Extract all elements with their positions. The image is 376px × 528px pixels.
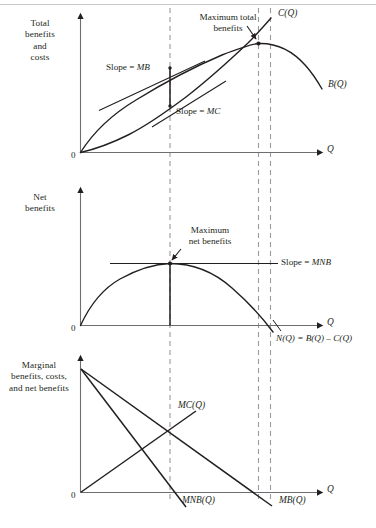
- annotation-slope-mnb-prefix: Slope =: [281, 257, 312, 267]
- mb-curve-label: MB(Q): [279, 495, 306, 505]
- economics-figure: Total benefits and costs Maximum total b…: [0, 0, 376, 528]
- panel3-x-axis-label: Q: [327, 484, 334, 494]
- dashed-guide-lines: [170, 8, 271, 499]
- panel2-y-axis-label-line-2: benefits: [8, 203, 72, 214]
- point-mc-tangency: [168, 104, 171, 107]
- annotation-slope-mnb: Slope = MNB: [281, 257, 331, 267]
- arrow-maximum-net-benefits: [172, 249, 181, 260]
- annotation-maximum-total-benefits-line-1: Maximum total: [182, 12, 274, 23]
- panel1-y-axis-label: Total benefits and costs: [8, 18, 72, 64]
- panel1-y-axis-label-line-1: Total: [8, 18, 72, 29]
- mnb-curve-label: MNB(Q): [182, 495, 215, 505]
- panel1-origin-label: 0: [71, 150, 76, 160]
- panel-total-benefits-and-costs: [81, 18, 323, 153]
- annotation-slope-mb-symbol: MB: [137, 62, 150, 72]
- curve-total-costs: [81, 18, 272, 153]
- cost-curve-label: C(Q): [278, 8, 297, 18]
- curve-net-benefits: [81, 264, 274, 333]
- annotation-slope-mb: Slope = MB: [106, 62, 150, 72]
- panel3-y-axis-label-line-1: Marginal: [2, 360, 76, 371]
- panel3-origin-label: 0: [71, 490, 76, 500]
- mc-curve-label: MC(Q): [178, 400, 205, 410]
- panel3-y-axis-label-line-2: benefits, costs,: [2, 371, 76, 382]
- annotation-maximum-net-benefits-line-1: Maximum: [168, 225, 252, 236]
- panel1-y-axis-label-line-2: benefits: [8, 29, 72, 40]
- annotation-maximum-total-benefits-line-2: benefits: [182, 23, 274, 34]
- curve-marginal-cost: [81, 411, 197, 493]
- panel2-origin-label: 0: [71, 323, 76, 333]
- panel-marginal-curves: [81, 360, 319, 507]
- panel1-y-axis-label-line-4: costs: [8, 52, 72, 63]
- curve-marginal-benefit: [81, 369, 272, 506]
- panel2-y-axis-label-line-1: Net: [8, 192, 72, 203]
- annotation-slope-mb-prefix: Slope =: [106, 62, 137, 72]
- panel2-x-axis-label: Q: [327, 317, 334, 327]
- annotation-maximum-net-benefits-line-2: net benefits: [168, 236, 252, 247]
- panel1-y-axis-label-line-3: and: [8, 41, 72, 52]
- panel2-y-axis-label: Net benefits: [8, 192, 72, 215]
- annotation-slope-mc-symbol: MC: [207, 106, 221, 116]
- benefit-curve-label: B(Q): [328, 79, 347, 89]
- point-maximum-total-benefits: [256, 41, 260, 45]
- annotation-maximum-total-benefits: Maximum total benefits: [182, 12, 274, 34]
- annotation-slope-mc: Slope = MC: [176, 106, 220, 116]
- annotation-slope-mnb-symbol: MNB: [312, 257, 331, 267]
- annotation-maximum-net-benefits: Maximum net benefits: [168, 225, 252, 247]
- net-benefit-equation-label: N(Q) = B(Q) – C(Q): [276, 333, 352, 343]
- curve-total-benefits: [81, 43, 323, 152]
- tangent-marginal-cost: [152, 81, 226, 127]
- panel3-y-axis-label-line-3: and net benefits: [2, 383, 76, 394]
- point-mb-tangency: [168, 66, 171, 69]
- annotation-slope-mc-prefix: Slope =: [176, 106, 207, 116]
- panel1-x-axis-label: Q: [327, 144, 334, 154]
- point-maximum-net-benefits: [168, 261, 172, 265]
- panel3-y-axis-label: Marginal benefits, costs, and net benefi…: [2, 360, 76, 394]
